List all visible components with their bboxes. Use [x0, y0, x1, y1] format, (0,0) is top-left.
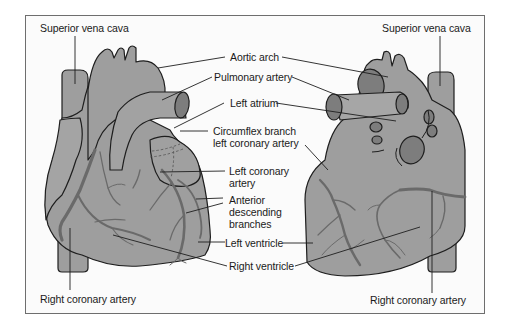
label-left-atrium: Left atrium: [230, 97, 279, 109]
label-superior-vena-cava-posterior: Superior vena cava: [382, 22, 471, 34]
label-superior-vena-cava-anterior: Superior vena cava: [40, 22, 129, 34]
label-pulmonary-artery: Pulmonary artery: [214, 71, 292, 83]
label-left-ventricle: Left ventricle: [225, 237, 283, 249]
label-left-coronary-artery: Left coronary artery: [229, 165, 289, 189]
label-right-ventricle: Right ventricle: [229, 260, 294, 272]
label-right-coronary-artery-posterior: Right coronary artery: [370, 294, 466, 306]
label-anterior-descending-branches: Anterior descending branches: [229, 194, 282, 230]
label-circumflex-branch: Circumflex branch left coronary artery: [213, 125, 299, 149]
posterior-heart: [305, 51, 465, 276]
label-right-coronary-artery-anterior: Right coronary artery: [40, 293, 136, 305]
label-aortic-arch: Aortic arch: [230, 51, 279, 63]
